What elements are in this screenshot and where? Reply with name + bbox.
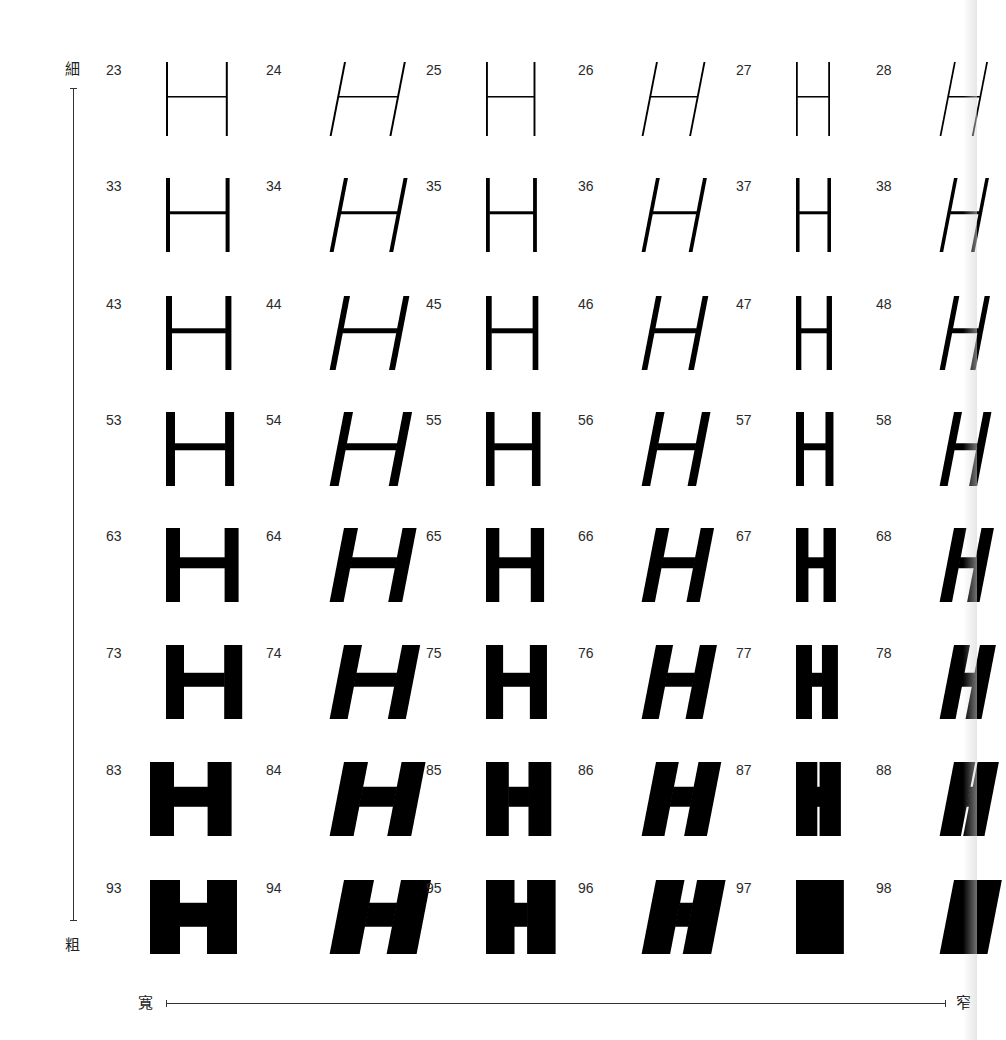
specimen-cell: 84 bbox=[266, 762, 416, 878]
specimen-cell: 76 bbox=[578, 645, 728, 761]
specimen-cell: 96 bbox=[578, 880, 728, 996]
glyph-h bbox=[736, 880, 896, 970]
glyph-h bbox=[578, 528, 738, 618]
specimen-cell: 73 bbox=[106, 645, 256, 761]
glyph-h bbox=[266, 762, 426, 852]
glyph-h bbox=[876, 880, 1006, 970]
specimen-cell: 36 bbox=[578, 178, 728, 294]
specimen-cell: 35 bbox=[426, 178, 576, 294]
glyph-h bbox=[876, 62, 1006, 152]
glyph-h bbox=[876, 412, 1006, 502]
specimen-cell: 23 bbox=[106, 62, 256, 178]
specimen-cell: 28 bbox=[876, 62, 1006, 178]
specimen-cell: 25 bbox=[426, 62, 576, 178]
specimen-cell: 83 bbox=[106, 762, 256, 878]
specimen-cell: 38 bbox=[876, 178, 1006, 294]
axis-cap-right bbox=[945, 1000, 946, 1007]
specimen-cell: 95 bbox=[426, 880, 576, 996]
page-fold-shadow bbox=[963, 0, 977, 1040]
specimen-cell: 66 bbox=[578, 528, 728, 644]
specimen-cell: 58 bbox=[876, 412, 1006, 528]
glyph-h bbox=[426, 296, 586, 386]
glyph-h bbox=[426, 762, 586, 852]
specimen-cell: 34 bbox=[266, 178, 416, 294]
glyph-h bbox=[876, 296, 1006, 386]
glyph-h bbox=[876, 178, 1006, 268]
specimen-cell: 37 bbox=[736, 178, 886, 294]
glyph-h bbox=[106, 62, 266, 152]
glyph-h bbox=[578, 296, 738, 386]
glyph-h bbox=[426, 645, 586, 735]
glyph-h bbox=[578, 880, 738, 970]
glyph-h bbox=[266, 412, 426, 502]
specimen-cell: 56 bbox=[578, 412, 728, 528]
specimen-cell: 46 bbox=[578, 296, 728, 412]
glyph-h bbox=[736, 62, 896, 152]
weight-axis-line bbox=[73, 88, 74, 921]
glyph-h bbox=[736, 528, 896, 618]
glyph-h bbox=[876, 645, 1006, 735]
glyph-h bbox=[106, 528, 266, 618]
specimen-cell: 43 bbox=[106, 296, 256, 412]
specimen-cell: 78 bbox=[876, 645, 1006, 761]
glyph-h bbox=[266, 528, 426, 618]
glyph-h bbox=[578, 412, 738, 502]
glyph-h bbox=[876, 762, 1006, 852]
width-axis-line bbox=[166, 1003, 946, 1004]
specimen-cell: 97 bbox=[736, 880, 886, 996]
specimen-cell: 27 bbox=[736, 62, 886, 178]
glyph-h bbox=[266, 178, 426, 268]
glyph-h bbox=[426, 880, 586, 970]
glyph-h bbox=[426, 528, 586, 618]
glyph-h bbox=[266, 645, 426, 735]
specimen-cell: 47 bbox=[736, 296, 886, 412]
specimen-cell: 77 bbox=[736, 645, 886, 761]
glyph-h bbox=[736, 412, 896, 502]
glyph-h bbox=[106, 178, 266, 268]
glyph-h bbox=[426, 62, 586, 152]
specimen-cell: 57 bbox=[736, 412, 886, 528]
glyph-h bbox=[106, 296, 266, 386]
specimen-cell: 86 bbox=[578, 762, 728, 878]
specimen-cell: 68 bbox=[876, 528, 1006, 644]
glyph-h bbox=[578, 762, 738, 852]
specimen-cell: 94 bbox=[266, 880, 416, 996]
specimen-cell: 54 bbox=[266, 412, 416, 528]
specimen-cell: 65 bbox=[426, 528, 576, 644]
specimen-cell: 26 bbox=[578, 62, 728, 178]
glyph-h bbox=[106, 762, 266, 852]
glyph-h bbox=[876, 528, 1006, 618]
glyph-h bbox=[736, 645, 896, 735]
glyph-h bbox=[266, 296, 426, 386]
glyph-h bbox=[578, 62, 738, 152]
glyph-h bbox=[106, 880, 266, 970]
specimen-cell: 44 bbox=[266, 296, 416, 412]
specimen-cell: 75 bbox=[426, 645, 576, 761]
specimen-cell: 85 bbox=[426, 762, 576, 878]
specimen-cell: 63 bbox=[106, 528, 256, 644]
glyph-h bbox=[426, 178, 586, 268]
glyph-h bbox=[578, 645, 738, 735]
glyph-h bbox=[106, 412, 266, 502]
specimen-cell: 88 bbox=[876, 762, 1006, 878]
specimen-cell: 53 bbox=[106, 412, 256, 528]
specimen-cell: 87 bbox=[736, 762, 886, 878]
glyph-h bbox=[736, 762, 896, 852]
specimen-cell: 33 bbox=[106, 178, 256, 294]
specimen-cell: 98 bbox=[876, 880, 1006, 996]
glyph-h bbox=[266, 880, 426, 970]
glyph-h bbox=[266, 62, 426, 152]
specimen-cell: 24 bbox=[266, 62, 416, 178]
specimen-cell: 93 bbox=[106, 880, 256, 996]
specimen-cell: 55 bbox=[426, 412, 576, 528]
axis-label-bold: 粗 bbox=[65, 938, 80, 953]
specimen-cell: 48 bbox=[876, 296, 1006, 412]
axis-cap-bottom bbox=[70, 920, 77, 921]
glyph-h bbox=[736, 178, 896, 268]
glyph-h bbox=[106, 645, 266, 735]
specimen-cell: 64 bbox=[266, 528, 416, 644]
glyph-h bbox=[736, 296, 896, 386]
glyph-h bbox=[426, 412, 586, 502]
axis-label-thin: 細 bbox=[65, 62, 80, 77]
specimen-cell: 45 bbox=[426, 296, 576, 412]
